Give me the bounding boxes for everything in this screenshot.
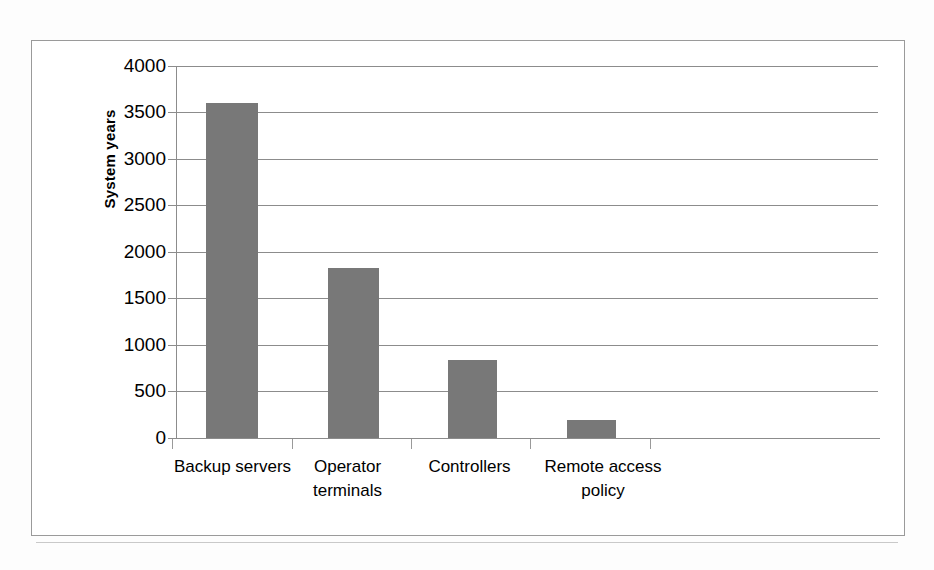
y-tick-label-1000: 1000: [86, 335, 166, 354]
x-category-label-line1: Controllers: [407, 455, 532, 479]
y-tick-3500: [168, 112, 177, 113]
y-tick-1500: [168, 298, 177, 299]
y-tick-4000: [168, 66, 177, 67]
gridline-4000: [176, 66, 878, 67]
x-category-label-backup-servers: Backup servers: [160, 455, 305, 479]
y-tick-label-4000: 4000: [86, 56, 166, 75]
scanned-page: System years: [0, 0, 934, 570]
y-tick-500: [168, 391, 177, 392]
bar-chart: System years: [0, 0, 934, 570]
gridline-1000: [176, 345, 878, 346]
y-tick-1000: [168, 345, 177, 346]
gridline-500: [176, 391, 878, 392]
x-tick-1: [292, 439, 293, 449]
gridline-3500: [176, 112, 878, 113]
bar-operator-terminals: [328, 268, 379, 438]
x-tick-0: [172, 439, 173, 449]
x-category-label-line2: policy: [528, 479, 678, 503]
y-tick-label-0: 0: [86, 428, 166, 447]
x-category-label-line1: Operator: [285, 455, 410, 479]
x-category-label-controllers: Controllers: [407, 455, 532, 479]
y-tick-label-group: 4000 3500 3000 2500 2000 1500 1000 500 0: [82, 0, 166, 500]
bar-remote-access-policy: [567, 420, 616, 438]
x-category-label-remote-access-policy: Remote access policy: [528, 455, 678, 503]
x-category-label-operator-terminals: Operator terminals: [285, 455, 410, 503]
bar-controllers: [448, 360, 497, 438]
x-axis-line: [168, 438, 880, 439]
y-tick-2500: [168, 205, 177, 206]
x-tick-2: [411, 439, 412, 449]
gridline-2500: [176, 205, 878, 206]
gridline-3000: [176, 159, 878, 160]
y-tick-3000: [168, 159, 177, 160]
x-tick-3: [530, 439, 531, 449]
y-tick-label-1500: 1500: [86, 288, 166, 307]
x-tick-4: [650, 439, 651, 449]
gridline-1500: [176, 298, 878, 299]
y-tick-label-2000: 2000: [86, 242, 166, 261]
gridline-2000: [176, 252, 878, 253]
y-tick-label-500: 500: [86, 381, 166, 400]
x-category-label-line1: Backup servers: [160, 455, 305, 479]
bar-backup-servers: [206, 103, 258, 438]
x-category-label-line1: Remote access: [528, 455, 678, 479]
plot-area: [176, 66, 878, 438]
y-tick-label-3500: 3500: [86, 102, 166, 121]
y-tick-label-3000: 3000: [86, 149, 166, 168]
y-tick-2000: [168, 252, 177, 253]
y-tick-label-2500: 2500: [86, 195, 166, 214]
x-category-label-line2: terminals: [285, 479, 410, 503]
